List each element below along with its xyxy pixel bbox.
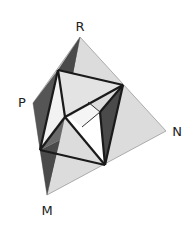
label-p: P [18, 95, 26, 110]
label-m: M [41, 203, 52, 218]
tetrahedron-diagram: R P N M [0, 0, 195, 230]
label-n: N [172, 124, 182, 139]
label-r: R [75, 19, 84, 34]
